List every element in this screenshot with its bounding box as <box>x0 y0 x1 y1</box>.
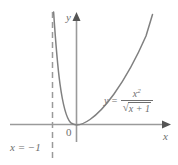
radicand: x + 1 <box>128 102 151 115</box>
y-axis <box>73 12 81 142</box>
fraction-numerator: x2 <box>130 88 144 100</box>
function-equation-label: y = x2 √ x + 1 <box>104 88 153 115</box>
numerator-exponent: 2 <box>137 87 141 95</box>
function-equation-lhs: y = <box>104 96 118 106</box>
y-axis-label: y <box>66 12 71 23</box>
square-root-expression: √ x + 1 <box>123 102 151 115</box>
origin-label: 0 <box>66 127 72 138</box>
x-axis-label: x <box>163 131 168 142</box>
function-graph-figure: y x 0 x = −1 y = x2 √ x + 1 <box>0 0 178 165</box>
function-fraction: x2 √ x + 1 <box>121 88 153 115</box>
asymptote-equation-label: x = −1 <box>10 142 41 153</box>
x-axis <box>10 121 171 129</box>
fraction-denominator: √ x + 1 <box>121 101 153 115</box>
